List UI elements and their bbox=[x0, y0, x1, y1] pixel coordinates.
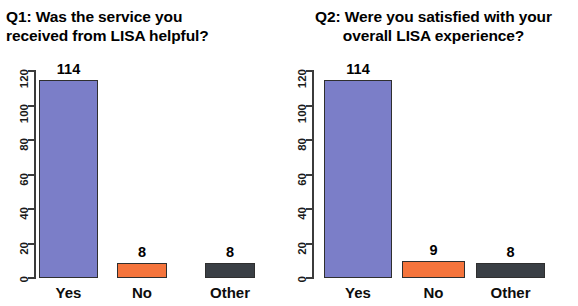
chart-panel-q1: Q1: Was the service you received from LI… bbox=[0, 0, 289, 306]
y-axis-tick-label: 20 bbox=[296, 242, 308, 276]
y-axis-tick-label: 60 bbox=[18, 173, 30, 207]
bar-other bbox=[205, 263, 255, 278]
bar-other bbox=[476, 263, 545, 278]
plot-area-q2: 020406080100120114Yes9No8Other bbox=[289, 0, 578, 306]
chart-page: Q1: Was the service you received from LI… bbox=[0, 0, 578, 306]
bar-value-label: 8 bbox=[193, 244, 267, 260]
y-axis-line bbox=[312, 70, 314, 279]
y-axis-tick-label: 120 bbox=[296, 69, 308, 103]
y-axis-tick-label: 20 bbox=[18, 242, 30, 276]
chart-panel-q2: Q2: Were you satisfied with your overall… bbox=[289, 0, 578, 306]
plot-area-q1: 020406080100120114Yes8No8Other bbox=[0, 0, 289, 306]
y-axis-cap bbox=[306, 277, 314, 279]
bar-value-label: 114 bbox=[312, 61, 404, 77]
x-axis-label-other: Other bbox=[185, 284, 275, 301]
y-axis-tick-label: 80 bbox=[18, 138, 30, 172]
y-axis-cap bbox=[28, 277, 36, 279]
bar-value-label: 8 bbox=[464, 244, 557, 260]
y-axis-tick-label: 40 bbox=[18, 207, 30, 241]
bar-value-label: 114 bbox=[27, 61, 110, 77]
y-axis-line bbox=[34, 70, 36, 279]
bar-value-label: 8 bbox=[105, 244, 179, 260]
bar-no bbox=[117, 263, 167, 278]
y-axis-tick-label: 60 bbox=[296, 173, 308, 207]
x-axis-label-other: Other bbox=[456, 284, 565, 301]
x-axis-label-no: No bbox=[97, 284, 187, 301]
bar-yes bbox=[39, 80, 98, 278]
y-axis-tick-label: 100 bbox=[296, 104, 308, 138]
bar-yes bbox=[324, 80, 392, 278]
bar-no bbox=[402, 261, 465, 278]
y-axis-tick-label: 80 bbox=[296, 138, 308, 172]
y-axis-tick-label: 100 bbox=[18, 104, 30, 138]
y-axis-tick-label: 40 bbox=[296, 207, 308, 241]
